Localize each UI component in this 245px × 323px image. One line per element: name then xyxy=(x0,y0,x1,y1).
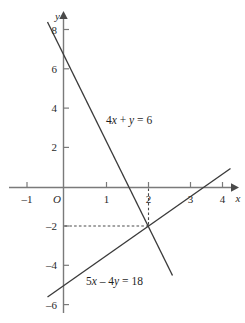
y-axis-arrowhead xyxy=(59,11,67,19)
axis-names-group: y x xyxy=(54,10,241,204)
coordinate-plane: 8 6 4 2 –2 –4 –6 –1 1 2 3 4 O y x 4x + y… xyxy=(0,0,245,323)
x-axis-arrowhead xyxy=(231,183,239,191)
y-axis-label: y xyxy=(54,10,60,22)
eq1-rhs: = 6 xyxy=(134,114,152,126)
y-label-2: 2 xyxy=(52,141,58,153)
x-axis-label: x xyxy=(235,192,241,204)
x-label-2: 2 xyxy=(146,193,152,205)
equation-annotations-group: 4x + y = 6 5x – 4y = 18 xyxy=(86,114,152,288)
x-label-4: 4 xyxy=(220,193,226,205)
y-label-neg2: –2 xyxy=(45,220,57,232)
y-label-6: 6 xyxy=(52,63,58,75)
origin-label: O xyxy=(53,193,61,205)
eq2-rhs: = 18 xyxy=(119,275,143,287)
line-4x-plus-y-equals-6 xyxy=(48,22,173,276)
y-label-neg6: –6 xyxy=(45,299,58,311)
graph-figure: 8 6 4 2 –2 –4 –6 –1 1 2 3 4 O y x 4x + y… xyxy=(0,0,245,323)
x-label-1: 1 xyxy=(104,193,110,205)
eq2-operator: – 4 xyxy=(97,275,115,287)
equation-label-line2: 5x – 4y = 18 xyxy=(86,275,143,288)
x-label-3: 3 xyxy=(188,193,194,205)
y-label-8: 8 xyxy=(52,24,58,36)
tick-labels-group: 8 6 4 2 –2 –4 –6 –1 1 2 3 4 O xyxy=(21,24,226,311)
x-label-neg1: –1 xyxy=(21,193,33,205)
y-label-4: 4 xyxy=(52,102,58,114)
axes-group xyxy=(9,11,239,313)
graph-lines-group xyxy=(48,22,231,297)
eq1-operator: + xyxy=(117,114,129,126)
equation-label-line1: 4x + y = 6 xyxy=(106,114,152,127)
y-label-neg4: –4 xyxy=(45,259,58,271)
